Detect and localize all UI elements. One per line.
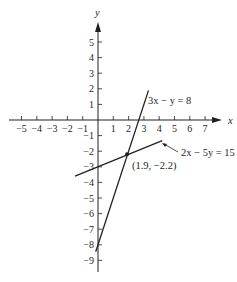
line1-label: 3x − y = 8 [148, 95, 191, 106]
y-tick-label: 5 [89, 37, 94, 48]
y-tick-label: −8 [83, 239, 94, 250]
x-axis-label: x [227, 115, 233, 126]
leader-arrow-icon [162, 143, 167, 147]
x-tick-label: 1 [111, 123, 116, 134]
axis-ticks: −5−4−3−2−1123456754321−1−2−3−4−5−6−7−8−9 [16, 37, 207, 266]
x-tick-label: 6 [187, 123, 192, 134]
y-tick-label: −6 [83, 208, 94, 219]
coordinate-plane: −5−4−3−2−1123456754321−1−2−3−4−5−6−7−8−9… [0, 0, 237, 282]
y-tick-label: 4 [89, 52, 94, 63]
x-tick-label: −2 [62, 123, 73, 134]
y-axis-arrow-icon [95, 22, 101, 32]
y-tick-label: 3 [89, 68, 94, 79]
x-tick-label: 5 [172, 123, 177, 134]
line2-label: 2x − 5y = 15 [181, 147, 235, 158]
y-tick-label: −5 [83, 193, 94, 204]
intersection-point [125, 152, 129, 156]
x-tick-label: −4 [31, 123, 42, 134]
x-tick-label: −3 [47, 123, 58, 134]
y-axis-label: y [94, 7, 100, 18]
x-tick-label: 2 [126, 123, 131, 134]
y-tick-label: −2 [83, 146, 94, 157]
y-tick-label: 2 [89, 83, 94, 94]
y-tick-label: 1 [89, 99, 94, 110]
chart-labels: y x 3x − y = 8 2x − 5y = 15 (1.9, −2.2) [94, 7, 235, 172]
line-3x-minus-y-eq-8 [96, 90, 149, 251]
x-tick-label: 3 [141, 123, 146, 134]
intersection-label: (1.9, −2.2) [132, 160, 177, 172]
y-tick-label: −4 [83, 177, 94, 188]
y-tick-label: −9 [83, 255, 94, 266]
x-tick-label: 7 [203, 123, 208, 134]
y-tick-label: −7 [83, 224, 94, 235]
y-tick-label: −1 [83, 130, 94, 141]
x-tick-label: 4 [157, 123, 162, 134]
x-axis-arrow-icon [212, 117, 222, 123]
x-tick-label: −5 [16, 123, 27, 134]
